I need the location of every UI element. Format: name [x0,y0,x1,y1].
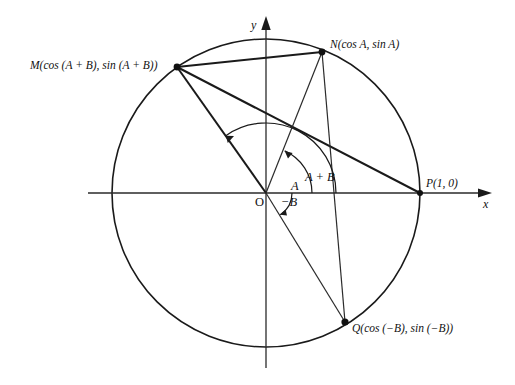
segment-chord-M-P [177,67,420,193]
point-dot-Q [341,318,348,325]
segment-radius-O-Q [266,193,345,322]
point-dot-M [174,64,181,71]
x-axis-label: x [483,198,488,210]
segment-chord-N-Q [322,52,345,322]
angle-label-A-plus-B: A + B [305,171,335,184]
point-label-Q: Q(cos (−B), sin (−B)) [352,323,453,335]
geometry-figure: M(cos (A + B), sin (A + B)) N(cos A, sin… [0,0,515,385]
point-label-M: M(cos (A + B), sin (A + B)) [30,60,158,72]
angle-label-minus-B: −B [281,196,297,209]
segment-radius-O-M [177,67,266,193]
y-axis-label: y [251,19,256,31]
point-dot-N [319,49,326,56]
point-label-N: N(cos A, sin A) [330,39,399,51]
y-axis-arrowhead [261,16,270,30]
point-dot-P [417,190,423,196]
origin-label: O [255,196,264,209]
angle-label-A: A [291,180,299,193]
point-label-P: P(1, 0) [426,178,458,190]
